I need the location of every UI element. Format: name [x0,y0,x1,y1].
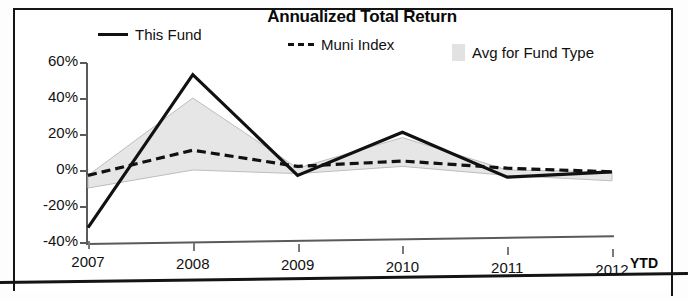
y-axis-tick [80,98,87,100]
page-border-right [671,8,673,296]
x-axis-label: 2007 [71,253,104,270]
x-axis-tick [88,241,90,249]
x-axis-label: 2009 [281,256,314,273]
x-axis-tick [402,246,404,254]
x-axis-tick [298,244,300,252]
x-axis-label: 2012 [595,261,628,278]
solid-line-swatch-icon [98,33,128,36]
x-axis-tick [193,243,195,251]
legend-item-this-fund: This Fund [98,26,202,43]
x-axis-tick [507,247,509,255]
y-axis-tick [80,242,87,244]
legend-label-this-fund: This Fund [135,26,202,43]
legend-label-avg-for-fund-type: Avg for Fund Type [472,44,594,61]
x-axis-label: 2011 [491,259,523,276]
y-axis-tick [80,62,87,64]
x-axis-tick [612,249,614,257]
y-axis-tick [80,206,87,208]
dashed-line-swatch-icon [288,43,314,46]
x-axis-ytd-label: YTD [630,255,658,271]
y-axis-label: -20% [16,196,78,213]
chart-figure: Annualized Total Return This Fund Muni I… [0,0,688,299]
y-axis-labels: 60%40%20%0%-20%-40% [8,0,78,299]
y-axis-label: 60% [16,52,78,69]
y-axis-label: 20% [16,124,78,141]
plot-area [88,62,612,242]
y-axis-tick [80,170,87,172]
x-axis-label: 2008 [176,255,209,272]
y-axis-label: 0% [16,160,78,177]
band-swatch-icon [452,44,465,61]
x-axis-label: 2010 [386,258,419,275]
legend-item-avg-for-fund-type: Avg for Fund Type [452,44,594,61]
y-axis-label: -40% [16,232,78,249]
legend-item-muni-index: Muni Index [288,36,394,53]
y-axis-tick [80,134,87,136]
chart-title: Annualized Total Return [222,7,502,27]
chart-svg [88,62,612,242]
y-axis-label: 40% [16,88,78,105]
legend-label-muni-index: Muni Index [321,36,394,53]
